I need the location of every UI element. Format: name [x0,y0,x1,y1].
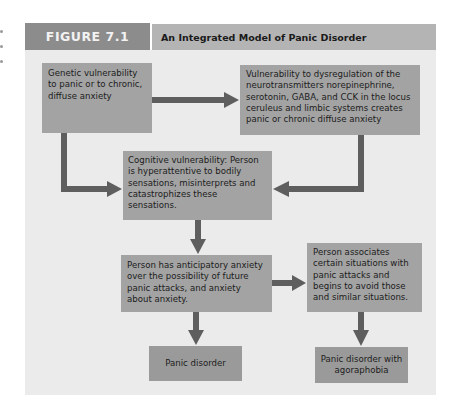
node-cognitive-vulnerability: Cognitive vulnerability: Person is hyper… [123,151,272,220]
node-genetic-vulnerability: Genetic vulnerability to panic or to chr… [42,63,152,133]
arrow-cognitive-to-anticipatory [190,220,206,254]
arrow-associates-to-agoraphobia [353,312,369,346]
arrow-anticipatory-to-panic-disorder [188,312,204,345]
arrow-neuro-to-cognitive [273,135,364,197]
arrow-genetic-to-neuro [152,92,239,108]
node-panic-disorder-with-agoraphobia: Panic disorder with agoraphobia [315,347,408,383]
node-anticipatory-anxiety: Person has anticipatory anxiety over the… [121,255,272,312]
arrow-anticipatory-to-associates [272,275,306,291]
node-panic-disorder: Panic disorder [149,346,242,381]
node-situational-association: Person associates certain situations wit… [307,243,422,312]
arrow-genetic-to-cognitive [61,133,122,197]
node-neurotransmitter-vulnerability: Vulnerability to dysregulation of the ne… [240,65,420,135]
